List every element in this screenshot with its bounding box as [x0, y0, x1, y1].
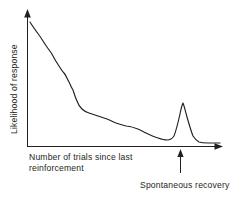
x-axis-label-line1: Number of trials since last: [29, 152, 133, 162]
arrow-up-icon: [24, 9, 31, 18]
x-axis: [28, 143, 224, 150]
y-axis-label: Likelihood of response: [9, 44, 19, 134]
chart-svg: Likelihood of response Number of trials …: [0, 0, 249, 198]
extinction-curve-figure: Likelihood of response Number of trials …: [0, 0, 249, 198]
annotation-label: Spontaneous recovery: [140, 180, 230, 190]
x-axis-label-line2: reinforcement: [29, 163, 84, 173]
y-axis: [24, 9, 31, 147]
spontaneous-recovery-pointer: [177, 149, 183, 173]
arrow-right-icon: [215, 143, 224, 150]
response-curve: [30, 22, 220, 143]
arrow-up-icon: [177, 149, 183, 157]
curve-path: [30, 22, 220, 143]
